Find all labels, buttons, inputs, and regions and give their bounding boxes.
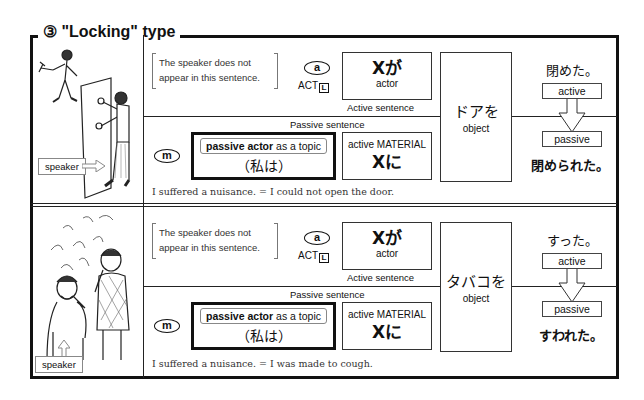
act-label: ACTL [298,250,329,263]
smoke-scene-icon [33,210,142,376]
arrow-down-icon [558,269,586,303]
act-l-tag: L [319,83,329,93]
actor-box: Xが actor [342,52,432,100]
arrow-down-icon [558,99,586,133]
object-box: ドアを object [440,52,512,182]
material-en: active MATERIAL [343,309,431,320]
caption: I suffered a nuisance. = I was made to c… [152,358,373,369]
object-en: object [441,123,511,134]
section-divider [31,203,617,207]
topic-jp: （私は） [194,156,333,176]
active-sentence-label: Active sentence [347,272,414,283]
subrow-divider [144,286,440,287]
verb-passive: 閉められた。 [522,155,618,174]
passive-marker: m [154,319,180,333]
object-jp: ドアを [441,103,511,121]
arrow-right-icon [82,160,106,172]
section-smoke: The speaker does not appear in this sent… [144,208,617,378]
active-tag: active [542,83,602,99]
illustration-door [33,40,142,202]
act-l-tag: L [319,253,329,263]
active-marker: a [304,61,330,75]
topic-box: passive actor as a topic （私は） [191,302,336,350]
active-tag: active [542,253,602,269]
active-marker: a [304,231,330,245]
speaker-label: speaker [38,158,86,175]
passive-tag: passive [542,301,602,317]
passive-sentence-label: Passive sentence [290,119,364,130]
speaker-absent-note: The speaker does not appear in this sent… [152,54,278,88]
topic-jp: （私は） [194,326,333,346]
subrow-divider [144,116,440,117]
actor-en: actor [343,248,431,259]
material-box: active MATERIAL Xに [342,302,432,350]
verb-active: 閉めた。 [532,60,612,79]
illustration-smoke [33,210,142,376]
act-label: ACTL [298,80,329,93]
material-en: active MATERIAL [343,139,431,150]
object-en: object [441,293,511,304]
topic-tag: passive actor as a topic [200,308,327,324]
material-jp: Xに [343,152,431,172]
door-scene-icon [33,40,142,202]
actor-en: actor [343,78,431,89]
material-box: active MATERIAL Xに [342,132,432,180]
speaker-absent-note: The speaker does not appear in this sent… [152,224,278,258]
active-sentence-label: Active sentence [347,102,414,113]
object-jp: タバコを [441,273,511,291]
topic-tag: passive actor as a topic [200,138,327,154]
passive-marker: m [154,149,180,163]
actor-box: Xが actor [342,222,432,270]
verb-passive: すわれた。 [526,325,616,344]
passive-sentence-label: Passive sentence [290,289,364,300]
caption: I suffered a nuisance. = I could not ope… [152,186,394,197]
speaker-label-2: speaker [35,356,83,373]
topic-box: passive actor as a topic （私は） [191,132,336,180]
passive-tag: passive [542,131,602,147]
actor-jp: Xが [343,58,431,78]
section-door: The speaker does not appear in this sent… [144,38,617,203]
object-box: タバコを object [440,222,512,352]
actor-jp: Xが [343,228,431,248]
material-jp: Xに [343,322,431,342]
verb-active: すった。 [532,230,612,249]
